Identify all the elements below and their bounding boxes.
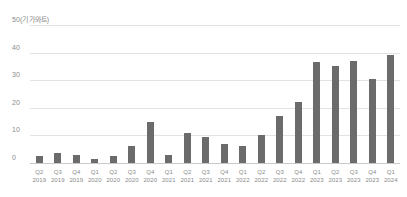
bar-fill (147, 122, 154, 163)
bar-fill (54, 153, 61, 163)
y-axis-tick-40: 40 (12, 44, 20, 51)
bar-q2-2023[interactable] (332, 25, 339, 163)
bar-q3-2020[interactable] (128, 25, 135, 163)
y-axis-tick-0: 0 (12, 154, 16, 161)
bar-fill (387, 55, 394, 163)
bar-fill (276, 116, 283, 163)
bar-q1-2020[interactable] (91, 25, 98, 163)
gridline-0 (30, 163, 400, 164)
bar-fill (350, 61, 357, 163)
bar-q1-2022[interactable] (239, 25, 246, 163)
x-axis-tick-q1-2024: Q12024 (379, 168, 403, 184)
bar-chart: 01020304050(기가와트) Q22019Q32019Q42019Q120… (0, 0, 407, 197)
bar-q4-2021[interactable] (221, 25, 228, 163)
bar-q1-2023[interactable] (313, 25, 320, 163)
bar-q4-2019[interactable] (73, 25, 80, 163)
bar-q4-2023[interactable] (369, 25, 376, 163)
bar-q3-2019[interactable] (54, 25, 61, 163)
bar-fill (36, 156, 43, 163)
y-axis-tick-10: 10 (12, 126, 20, 133)
bar-q3-2021[interactable] (202, 25, 209, 163)
bar-q3-2022[interactable] (276, 25, 283, 163)
y-axis-tick-20: 20 (12, 99, 20, 106)
bar-fill (369, 79, 376, 163)
bar-q4-2020[interactable] (147, 25, 154, 163)
bar-fill (239, 146, 246, 163)
bar-q3-2023[interactable] (350, 25, 357, 163)
bar-fill (184, 133, 191, 163)
bar-fill (73, 155, 80, 163)
bar-fill (110, 156, 117, 163)
y-axis-tick-50: 50(기가와트) (12, 16, 49, 23)
bar-fill (202, 137, 209, 163)
plot-area (30, 25, 400, 163)
bar-fill (313, 62, 320, 163)
bar-fill (165, 155, 172, 163)
x-tick-year: 2024 (379, 176, 403, 184)
y-axis-tick-30: 30 (12, 71, 20, 78)
bar-q4-2022[interactable] (295, 25, 302, 163)
bar-q2-2020[interactable] (110, 25, 117, 163)
bar-q1-2021[interactable] (165, 25, 172, 163)
bar-fill (221, 144, 228, 163)
bar-fill (332, 66, 339, 163)
bar-fill (128, 146, 135, 163)
bar-fill (258, 135, 265, 163)
bar-fill (91, 159, 98, 163)
bar-q1-2024[interactable] (387, 25, 394, 163)
bar-q2-2021[interactable] (184, 25, 191, 163)
bar-fill (295, 102, 302, 163)
x-tick-quarter: Q1 (379, 168, 403, 176)
bar-q2-2022[interactable] (258, 25, 265, 163)
bar-series (30, 25, 400, 163)
bar-q2-2019[interactable] (36, 25, 43, 163)
